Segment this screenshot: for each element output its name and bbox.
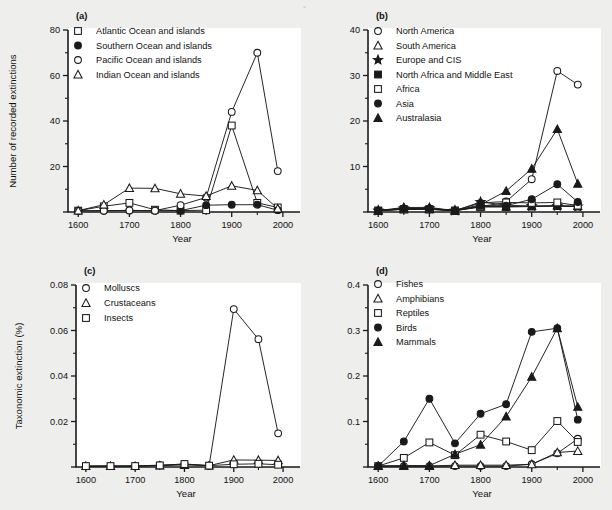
legend-label: Pacific Ocean and islands <box>96 55 202 65</box>
y-tick-label: 40 <box>350 25 360 35</box>
x-tick-label: 1700 <box>419 475 439 485</box>
y-tick-label: 0.3 <box>347 326 360 336</box>
chart-svg-d: (d)0.10.20.30.416001700180019002000YearF… <box>306 255 612 510</box>
data-point <box>255 336 262 343</box>
data-point <box>426 439 433 446</box>
data-point <box>206 462 213 469</box>
y-tick-label: 40 <box>50 116 60 126</box>
data-point <box>528 196 535 203</box>
x-tick-label: 1900 <box>221 220 241 230</box>
x-tick-label: 1800 <box>174 475 194 485</box>
data-point <box>275 461 282 468</box>
data-point <box>156 462 163 469</box>
data-point <box>574 439 581 446</box>
x-axis-title: Year <box>472 233 492 244</box>
data-point <box>83 285 90 292</box>
y-tick-label: 0.1 <box>347 417 360 427</box>
data-point <box>554 418 561 425</box>
y-tick-label: 80 <box>50 25 60 35</box>
data-point <box>477 431 484 438</box>
data-point <box>503 202 510 209</box>
chart-svg-b: (b)1020304016001700180019002000YearNorth… <box>306 0 612 255</box>
x-axis-title: Year <box>176 488 196 499</box>
y-tick-label: 20 <box>50 162 60 172</box>
data-point <box>275 430 282 437</box>
plot-area <box>75 283 301 467</box>
chart-svg-a: (a)2040608016001700180019002000YearNumbe… <box>0 0 306 255</box>
chart-svg-c: (c)0.020.040.060.0816001700180019002000Y… <box>0 255 306 510</box>
chart-panel-d: (d)0.10.20.30.416001700180019002000YearF… <box>306 255 612 510</box>
data-point <box>254 201 261 208</box>
x-tick-label: 1700 <box>119 220 139 230</box>
data-point <box>375 281 382 288</box>
data-point <box>228 201 235 208</box>
y-tick-label: 0.08 <box>50 280 68 290</box>
x-tick-label: 2000 <box>273 220 293 230</box>
data-point <box>574 81 581 88</box>
y-tick-label: 20 <box>350 116 360 126</box>
data-point <box>132 463 139 470</box>
x-tick-label: 1800 <box>170 220 190 230</box>
y-axis-title: Number of recorded extinctions <box>7 54 18 188</box>
data-point <box>228 109 235 116</box>
data-point <box>528 447 535 454</box>
data-point <box>554 68 561 75</box>
panel-label: (a) <box>76 10 87 21</box>
x-tick-label: 1800 <box>470 475 490 485</box>
legend-label: Australasia <box>396 113 442 123</box>
x-tick-label: 2000 <box>573 220 593 230</box>
legend-label: Birds <box>396 323 417 333</box>
x-tick-label: 1700 <box>419 220 439 230</box>
data-point <box>375 28 382 35</box>
data-point <box>126 207 133 214</box>
x-axis-title: Year <box>472 488 492 499</box>
legend-label: Reptiles <box>396 308 430 318</box>
legend-label: North Africa and Middle East <box>396 70 513 80</box>
data-point <box>181 461 188 468</box>
data-point <box>274 168 281 175</box>
legend-label: Indian Ocean and islands <box>96 70 200 80</box>
data-point <box>400 438 407 445</box>
chart-panel-a: (a)2040608016001700180019002000YearNumbe… <box>0 0 306 255</box>
data-point <box>75 42 82 49</box>
data-point <box>554 181 561 188</box>
y-tick-label: 0.4 <box>347 280 360 290</box>
data-point <box>375 310 382 317</box>
x-tick-label: 1900 <box>521 220 541 230</box>
data-point <box>75 57 82 64</box>
x-axis-title: Year <box>172 233 192 244</box>
y-tick-label: 0.2 <box>347 371 360 381</box>
x-tick-label: 2000 <box>573 475 593 485</box>
data-point <box>228 122 235 129</box>
data-point <box>152 207 159 214</box>
legend-label: Amphibians <box>396 294 444 304</box>
data-point <box>254 49 261 56</box>
data-point <box>230 306 237 313</box>
x-tick-label: 1800 <box>470 220 490 230</box>
legend-label: Crustaceans <box>104 298 156 308</box>
data-point <box>503 438 510 445</box>
x-tick-label: 1700 <box>125 475 145 485</box>
y-tick-label: 0.06 <box>50 326 68 336</box>
legend-label: Molluscs <box>104 283 140 293</box>
x-tick-label: 1600 <box>368 220 388 230</box>
x-tick-label: 1600 <box>368 475 388 485</box>
data-point <box>574 199 581 206</box>
data-point <box>400 455 407 462</box>
legend-label: North America <box>396 26 455 36</box>
data-point <box>528 328 535 335</box>
legend-label: Fishes <box>396 279 423 289</box>
legend-label: Southern Ocean and islands <box>96 41 212 51</box>
data-point <box>126 200 133 207</box>
data-point <box>107 463 114 470</box>
chart-panel-c: (c)0.020.040.060.0816001700180019002000Y… <box>0 255 306 510</box>
y-tick-label: 30 <box>350 71 360 81</box>
data-point <box>255 460 262 467</box>
extinction-figure: (a)2040608016001700180019002000YearNumbe… <box>0 0 612 510</box>
data-point <box>177 202 184 209</box>
data-point <box>426 395 433 402</box>
panel-label: (c) <box>84 265 95 276</box>
x-tick-label: 2000 <box>273 475 293 485</box>
panel-label: (b) <box>376 10 388 21</box>
data-point <box>503 401 510 408</box>
